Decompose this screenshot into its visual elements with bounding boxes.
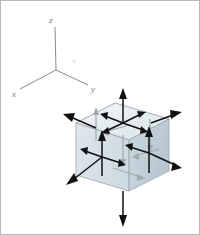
- y-axis-label: y: [90, 84, 95, 94]
- y-axis-line: [56, 70, 88, 85]
- x-axis-label: x: [11, 89, 16, 99]
- back-right-normal-arrow-head: [170, 110, 182, 119]
- x-axis-line: [20, 70, 56, 89]
- coordinate-axes-group: z x y s: [11, 15, 95, 99]
- z-axis-label: z: [48, 15, 53, 25]
- top-normal-arrow-head: [119, 88, 127, 99]
- back-arrow-head-left: [93, 107, 99, 115]
- axes-faint-label: s: [73, 57, 76, 65]
- bottom-normal-arrow-head: [119, 215, 127, 227]
- figure-canvas: z x y s: [1, 1, 200, 235]
- back-left-normal-arrow-head: [63, 113, 75, 122]
- z-axis-line: [55, 27, 56, 70]
- stress-element-figure: z x y s: [0, 0, 200, 235]
- bottom-face-stress-arrows: [119, 191, 127, 227]
